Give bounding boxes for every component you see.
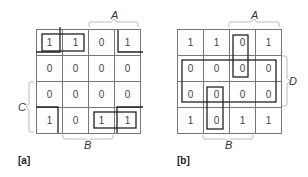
caption-b: [b] <box>177 155 190 166</box>
cell: 0 <box>178 82 204 108</box>
cell: 0 <box>230 82 256 108</box>
variable-label-b-right: D <box>289 75 297 87</box>
cell: 1 <box>178 108 204 134</box>
kmap-grid-b: 1 1 0 1 0 0 0 0 0 0 0 0 1 0 1 1 <box>177 29 282 134</box>
cell: 1 <box>230 108 256 134</box>
cell: 1 <box>256 108 282 134</box>
cell: 0 <box>256 82 282 108</box>
karnaugh-map-b: 1 1 0 1 0 0 0 0 0 0 0 0 1 0 1 1 A D B [b… <box>0 0 308 177</box>
cell: 1 <box>204 30 230 56</box>
cell: 0 <box>230 30 256 56</box>
variable-label-b-top: A <box>251 9 258 21</box>
cell: 0 <box>204 56 230 82</box>
cell: 0 <box>204 82 230 108</box>
cell: 1 <box>256 30 282 56</box>
cell: 0 <box>204 108 230 134</box>
cell: 0 <box>230 56 256 82</box>
cell: 1 <box>178 30 204 56</box>
variable-label-b-bottom: B <box>225 139 232 151</box>
cell: 0 <box>256 56 282 82</box>
cell: 0 <box>178 56 204 82</box>
